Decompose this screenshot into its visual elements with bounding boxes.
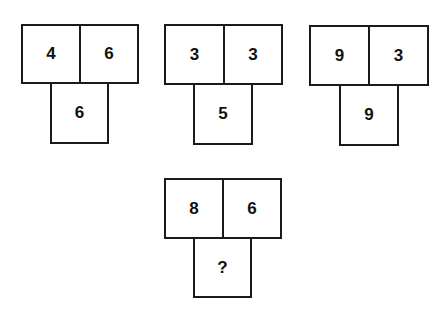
number-box-bottom: 5	[193, 83, 253, 145]
number-box-bottom: 9	[339, 84, 399, 146]
number-box-top-left: 8	[164, 178, 224, 239]
number-box-top-right: 6	[222, 178, 282, 239]
number-box-bottom: 6	[50, 82, 109, 144]
number-box-top-left: 4	[21, 24, 81, 84]
number-box-top-right: 6	[79, 24, 139, 84]
answer-box-unknown: ?	[193, 237, 252, 298]
number-box-top-right: 3	[223, 24, 283, 85]
number-box-top-right: 3	[368, 25, 429, 86]
number-box-top-left: 3	[164, 24, 225, 85]
number-box-top-left: 9	[309, 25, 370, 86]
